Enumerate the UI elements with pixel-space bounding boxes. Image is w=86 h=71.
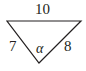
triangle-diagram: 10 7 8 α [0, 0, 86, 71]
side-top-label: 10 [35, 1, 50, 17]
side-right-label: 8 [64, 38, 72, 54]
side-left-label: 7 [9, 38, 17, 54]
angle-alpha-label: α [36, 41, 44, 56]
